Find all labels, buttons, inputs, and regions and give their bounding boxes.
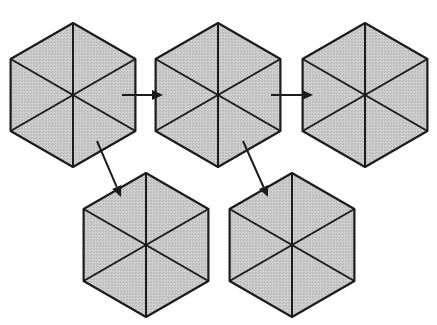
- hex-2: [156, 23, 281, 167]
- hex-5: [230, 173, 355, 317]
- arrow-2-5: [243, 141, 268, 197]
- hex-1: [11, 23, 136, 167]
- hexagon-diagram: [0, 0, 437, 325]
- hex-3: [303, 23, 428, 167]
- hexagon-group: [11, 23, 428, 317]
- hex-4: [84, 173, 209, 317]
- arrow-1-4: [97, 141, 121, 197]
